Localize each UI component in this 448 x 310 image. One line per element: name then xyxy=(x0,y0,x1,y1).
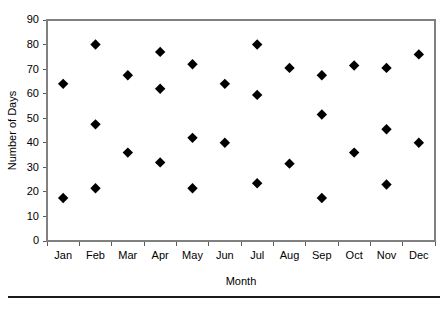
x-tick-label: Dec xyxy=(409,249,429,261)
x-axis-ticks: JanFebMarAprMayJunJulAugSepOctNovDec xyxy=(47,241,435,261)
data-point-marker xyxy=(187,133,197,143)
data-point-marker xyxy=(252,39,262,49)
x-tick-label: Jun xyxy=(216,249,234,261)
data-point-marker xyxy=(252,178,262,188)
data-point-marker xyxy=(187,183,197,193)
data-point-marker xyxy=(284,63,294,73)
x-tick-label: Mar xyxy=(118,249,137,261)
data-point-marker xyxy=(58,79,68,89)
x-tick-label: Sep xyxy=(312,249,332,261)
data-point-marker xyxy=(414,49,424,59)
x-tick-label: Nov xyxy=(377,249,397,261)
data-point-marker xyxy=(90,39,100,49)
data-point-marker xyxy=(381,63,391,73)
x-tick-label: Jul xyxy=(250,249,264,261)
data-point-marker xyxy=(317,70,327,80)
data-point-marker xyxy=(90,183,100,193)
data-point-marker xyxy=(381,179,391,189)
y-tick-label: 50 xyxy=(27,112,39,124)
data-point-marker xyxy=(155,157,165,167)
data-point-marker xyxy=(252,90,262,100)
y-axis-title: Number of Days xyxy=(6,90,18,170)
x-tick-label: Feb xyxy=(86,249,105,261)
y-tick-label: 20 xyxy=(27,185,39,197)
data-point-marker xyxy=(381,124,391,134)
x-tick-label: Apr xyxy=(152,249,169,261)
x-tick-label: Aug xyxy=(280,249,300,261)
data-point-marker xyxy=(155,47,165,57)
data-point-marker xyxy=(220,79,230,89)
x-tick-label: Oct xyxy=(346,249,363,261)
x-tick-label: Jan xyxy=(54,249,72,261)
plot-frame xyxy=(47,20,435,241)
x-tick-label: May xyxy=(182,249,203,261)
y-tick-label: 80 xyxy=(27,38,39,50)
plot-border xyxy=(47,20,435,241)
scatter-chart-figure: 0102030405060708090 JanFebMarAprMayJunJu… xyxy=(0,0,448,310)
data-point-marker xyxy=(414,138,424,148)
data-point-marker xyxy=(90,119,100,129)
data-point-marker xyxy=(123,70,133,80)
y-tick-label: 60 xyxy=(27,87,39,99)
x-axis-title: Month xyxy=(226,275,257,287)
data-point-marker xyxy=(123,147,133,157)
y-tick-label: 40 xyxy=(27,136,39,148)
y-tick-label: 70 xyxy=(27,63,39,75)
y-tick-label: 0 xyxy=(33,234,39,246)
y-tick-label: 30 xyxy=(27,161,39,173)
data-point-marker xyxy=(284,158,294,168)
data-point-marker xyxy=(317,109,327,119)
y-tick-label: 10 xyxy=(27,210,39,222)
data-point-marker xyxy=(155,84,165,94)
data-point-marker xyxy=(220,138,230,148)
data-point-marker xyxy=(349,147,359,157)
y-tick-label: 90 xyxy=(27,13,39,25)
data-point-marker xyxy=(349,60,359,70)
plot-area: 0102030405060708090 JanFebMarAprMayJunJu… xyxy=(0,0,448,310)
data-point-marker xyxy=(58,193,68,203)
data-markers xyxy=(58,39,424,203)
data-point-marker xyxy=(317,193,327,203)
y-axis-ticks: 0102030405060708090 xyxy=(27,13,47,246)
data-point-marker xyxy=(187,59,197,69)
